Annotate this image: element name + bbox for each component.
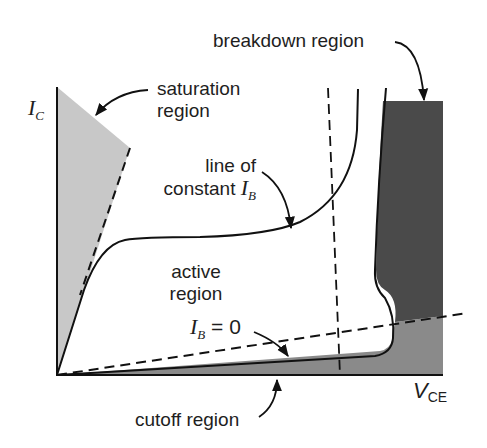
cutoff-arrow bbox=[259, 380, 277, 417]
saturation-arrow bbox=[96, 90, 148, 115]
constant-ib-label-line2: constant IB bbox=[146, 177, 256, 202]
constant-ib-label-line1: line of bbox=[146, 155, 256, 177]
ib-zero-label: IB = 0 bbox=[190, 316, 241, 341]
y-axis-label-sub: C bbox=[35, 108, 44, 123]
breakdown-region bbox=[376, 101, 443, 322]
breakdown-region-label: breakdown region bbox=[213, 30, 364, 52]
saturation-region-label: saturation region bbox=[157, 78, 240, 122]
cutoff-region-label: cutoff region bbox=[135, 409, 239, 431]
saturation-label-line1: saturation bbox=[157, 78, 240, 100]
ib-zero-sub: B bbox=[197, 327, 205, 342]
x-axis-label-main: V bbox=[413, 378, 428, 403]
constant-ib-var: I bbox=[241, 175, 248, 200]
y-axis-label: IC bbox=[28, 97, 44, 122]
active-region-label: active region bbox=[160, 261, 232, 305]
active-label-line1: active bbox=[160, 261, 232, 283]
constant-ib-arrow bbox=[262, 172, 291, 228]
x-axis-label-sub: CE bbox=[428, 389, 447, 405]
x-axis-label: VCE bbox=[413, 380, 447, 404]
ib-zero-arrow bbox=[254, 332, 288, 356]
active-label-line2: region bbox=[160, 283, 232, 305]
breakdown-arrow bbox=[395, 42, 424, 100]
constant-ib-sub: B bbox=[248, 188, 256, 203]
vertical-dashed-line bbox=[328, 88, 340, 375]
constant-ib-text: constant bbox=[164, 178, 241, 199]
constant-ib-label: line of constant IB bbox=[146, 155, 256, 202]
saturation-region bbox=[57, 87, 130, 375]
saturation-label-line2: region bbox=[157, 100, 240, 122]
ib-zero-eq: = 0 bbox=[205, 315, 241, 338]
